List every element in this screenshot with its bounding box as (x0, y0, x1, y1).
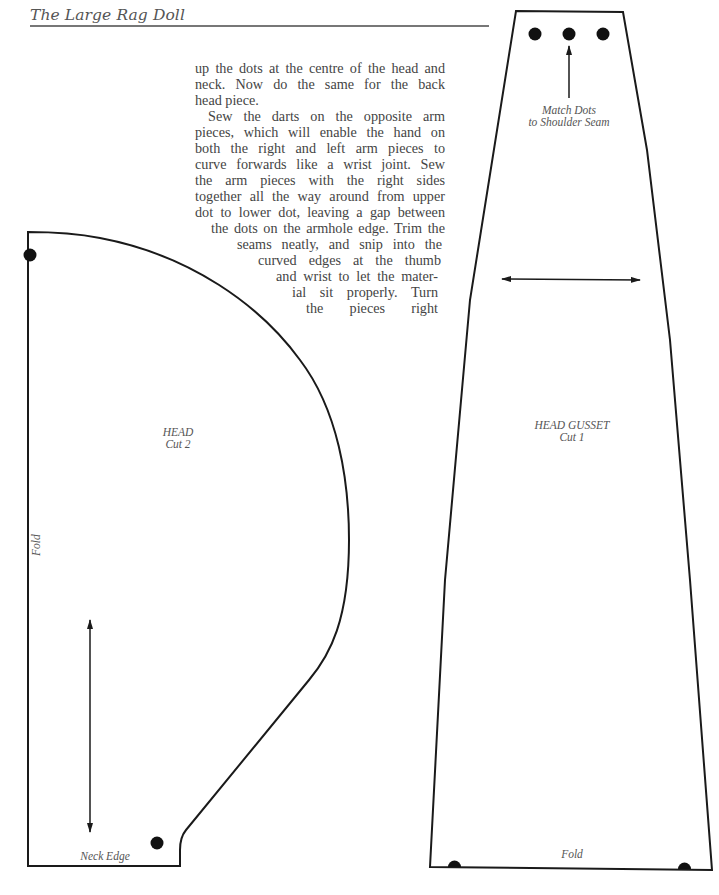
text-line: pieces, which will enable the hand on (195, 124, 445, 140)
head-neck-edge-label: Neck Edge (72, 850, 138, 862)
text-line: curve forwards like a wrist joint. Sew (195, 156, 445, 172)
gusset-dot-center (563, 28, 576, 41)
gusset-piece-cut: Cut 1 (520, 431, 624, 443)
text-line: neck. Now do the same for the back (195, 76, 445, 92)
head-outline (28, 232, 349, 866)
text-line: seams neatly, and snip into the (237, 236, 442, 252)
head-piece-cut: Cut 2 (150, 438, 206, 450)
head-piece-name: HEAD (150, 426, 206, 438)
gusset-fold-dot-left (448, 861, 461, 868)
text-line: ial sit properly. Turn (292, 284, 438, 300)
text-line: dot to lower dot, leaving a gap between (195, 204, 445, 220)
text-line: the arm pieces with the right sides (195, 172, 445, 188)
text-line: and wrist to let the mater- (276, 268, 438, 284)
gusset-match-dots-label: Match Dots to Shoulder Seam (508, 104, 630, 128)
text-line: together all the way around from upper (195, 188, 445, 204)
text-line: up the dots at the centre of the head an… (195, 60, 445, 76)
head-pattern-piece (24, 232, 350, 866)
gusset-fold-dot-right (678, 863, 691, 870)
text-line: curved edges at the thumb (258, 252, 441, 268)
gusset-piece-label: HEAD GUSSET Cut 1 (520, 419, 624, 443)
match-dots-line-1: Match Dots (508, 104, 630, 116)
head-fold-label: Fold (30, 534, 42, 556)
gusset-dot-right (597, 28, 610, 41)
text-line: head piece. (195, 92, 259, 108)
gusset-fold-label: Fold (552, 848, 592, 860)
match-dots-line-2: to Shoulder Seam (508, 116, 630, 128)
head-notch-dot-neck (151, 837, 164, 850)
text-line: Sew the darts on the opposite arm (208, 108, 445, 124)
head-piece-label: HEAD Cut 2 (150, 426, 206, 450)
grainline-arrow-horizontal (502, 279, 640, 280)
gusset-piece-name: HEAD GUSSET (520, 419, 624, 431)
text-line: the dots on the armhole edge. Trim the (211, 220, 445, 236)
text-line: both the right and left arm pieces to (195, 140, 445, 156)
text-line: the pieces right (306, 300, 438, 316)
gusset-dot-left (529, 28, 542, 41)
head-notch-dot-top (24, 249, 37, 262)
